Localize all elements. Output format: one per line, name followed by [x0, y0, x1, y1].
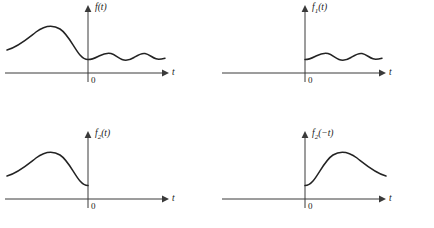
figure-four-signal-plots: f(t) t 0 f1(t) t 0 f2(t) t 0 f2(−t) t 0	[0, 0, 434, 228]
panel-f-origin-label: 0	[91, 76, 96, 85]
panel-f1-x-arrow	[379, 70, 386, 77]
panel-f-x-arrow	[162, 70, 169, 77]
panel-f1-x-axis-label: t	[389, 68, 392, 78]
panel-f-label-arg: (t)	[98, 2, 107, 12]
panel-f-y-axis-label: f(t)	[95, 3, 107, 13]
plots-canvas	[0, 0, 434, 228]
panel-f-curve	[7, 26, 165, 60]
panel-f2-y-axis-label: f2(t)	[95, 129, 110, 141]
panel-f-y-arrow	[85, 5, 92, 12]
panel-f2-origin-label: 0	[91, 202, 96, 211]
panel-f2-reflected-x-axis-label: t	[389, 194, 392, 204]
panel-f2-curve	[7, 152, 88, 185]
panel-f2-label-arg: (t)	[101, 128, 110, 138]
panel-f1-curve	[305, 53, 382, 60]
panel-f2-y-arrow	[85, 131, 92, 138]
panel-f2-reflected-y-arrow	[302, 131, 309, 138]
panel-f2-reflected-origin-label: 0	[308, 202, 313, 211]
panel-f1-y-axis-label: f1(t)	[312, 3, 327, 15]
panel-f2-reflected-x-arrow	[379, 196, 386, 203]
panel-f2-axes	[5, 131, 169, 208]
panel-f1-origin-label: 0	[308, 76, 313, 85]
panel-f-x-axis-label: t	[172, 68, 175, 78]
panel-f2-reflected-y-axis-label: f2(−t)	[312, 129, 334, 141]
panel-f2-reflected-curve	[305, 152, 386, 185]
panel-f-axes	[5, 5, 169, 82]
panel-f1-axes	[222, 5, 386, 82]
panel-f1-label-arg: (t)	[318, 2, 327, 12]
panel-f2-reflected-label-arg: (−t)	[318, 128, 333, 138]
panel-f2-x-axis-label: t	[172, 194, 175, 204]
panel-f1-y-arrow	[302, 5, 309, 12]
panel-f2-x-arrow	[162, 196, 169, 203]
panel-f2-reflected-axes	[222, 131, 386, 208]
